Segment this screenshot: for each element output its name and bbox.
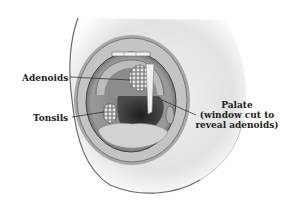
tonsils-label: Tonsils	[33, 113, 68, 123]
palate-label: Palate (window cut to reveal adenoids)	[189, 100, 285, 130]
mouth-anatomy-diagram: Adenoids Tonsils Palate (window cut to r…	[0, 0, 289, 215]
adenoids-label: Adenoids	[22, 73, 68, 83]
palate-label-line2: (window cut to	[189, 110, 285, 120]
tonsil-right	[166, 106, 174, 124]
palate-label-line1: Palate	[189, 100, 285, 110]
palate-label-line3: reveal adenoids)	[189, 120, 285, 130]
mouth-interior	[86, 52, 176, 152]
tonsil-left	[103, 103, 117, 123]
upper-teeth	[112, 52, 150, 56]
